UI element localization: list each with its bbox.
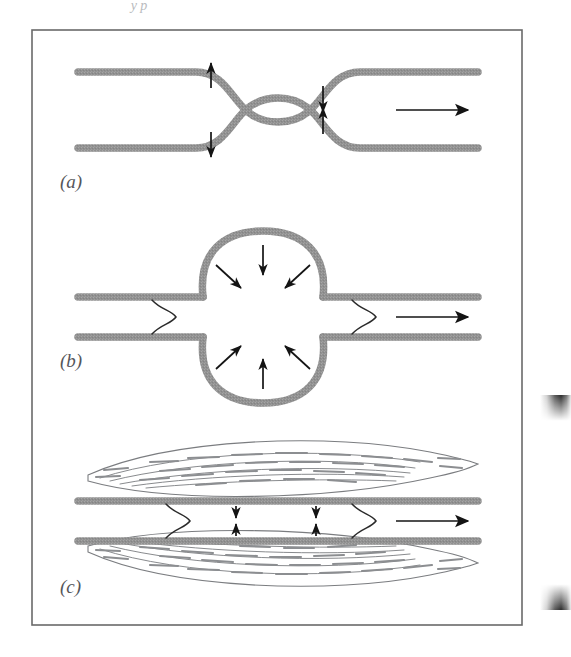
panel-b-label: (b) bbox=[60, 350, 82, 372]
panel-a-label: (a) bbox=[60, 171, 82, 193]
panel-c-label: (c) bbox=[60, 576, 81, 598]
vessel-figure-svg: y p (a) bbox=[0, 0, 571, 657]
page-gutter-shadow bbox=[540, 395, 571, 610]
cut-off-caption-text: y p bbox=[129, 0, 148, 13]
figure-root: y p (a) bbox=[0, 0, 571, 657]
